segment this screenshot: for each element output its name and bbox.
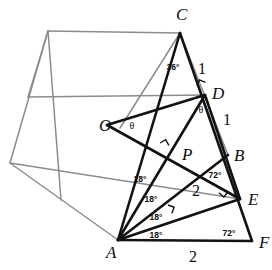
vertex-label-A: A: [105, 243, 117, 262]
angle-label-angle-ACD: 36°: [167, 62, 180, 72]
segment-A-to-B: [118, 155, 228, 240]
segment-C-to-F: [180, 33, 252, 241]
angle-label-angle-CAD: 18°: [134, 174, 147, 184]
length-label-AF: 2: [189, 248, 197, 265]
length-label-DB: 1: [223, 111, 231, 128]
angle-label-angle-DAB: 18°: [145, 194, 158, 204]
vertex-label-C: C: [176, 5, 188, 24]
vertex-label-E: E: [247, 190, 259, 209]
right-angle-on-AE: [166, 205, 174, 213]
vertex-label-F: F: [258, 233, 270, 252]
faint-segment-poly-top-edge: [48, 31, 180, 33]
angle-label-angle-at-B: 72°: [209, 170, 222, 180]
diagram-canvas: CDOPBEAF 1122 36°θθ18°18°18°18°72°72°: [0, 0, 272, 270]
faint-segment-C-to-inner-lower: [120, 33, 180, 128]
vertex-label-P: P: [181, 145, 192, 164]
vertex-label-D: D: [211, 84, 225, 103]
geometry-figure: CDOPBEAF 1122 36°θθ18°18°18°18°72°72°: [0, 0, 272, 270]
main-figure-lines: [107, 33, 252, 241]
angle-label-angle-EAF: 18°: [150, 230, 163, 240]
angle-label-angle-BAE: 18°: [150, 212, 163, 222]
length-label-CD: 1: [198, 60, 206, 77]
segment-A-to-F: [118, 240, 252, 241]
vertex-label-B: B: [234, 146, 245, 165]
angle-label-angle-AOD-theta: θ: [130, 120, 135, 131]
length-label-BE-region: 2: [192, 182, 200, 199]
right-angle-at-P: [160, 140, 169, 149]
angle-label-angle-ODA-theta: θ: [199, 104, 204, 115]
faint-segment-poly-left-lower-edge: [10, 163, 118, 240]
faint-segment-poly-inner-vertical: [48, 31, 61, 200]
faint-segment-left-vertex-spur: [28, 31, 48, 97]
angle-label-angle-at-F: 72°: [223, 228, 236, 238]
faint-segment-poly-inner-diagonal: [28, 95, 205, 97]
vertex-label-O: O: [99, 116, 111, 135]
